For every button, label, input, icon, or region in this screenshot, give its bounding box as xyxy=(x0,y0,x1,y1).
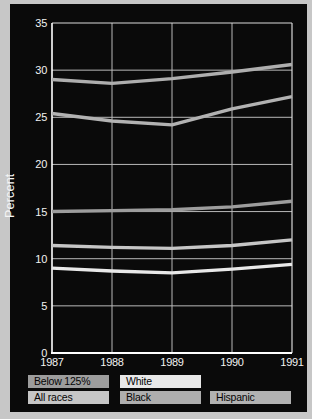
x-tick-label: 1991 xyxy=(275,357,309,368)
y-tick-label: 15 xyxy=(25,207,47,218)
legend-item-white: White xyxy=(120,375,201,388)
x-tick-label: 1989 xyxy=(155,357,189,368)
y-tick-label: 35 xyxy=(25,18,47,29)
x-tick-label: 1987 xyxy=(35,357,69,368)
x-tick-label: 1990 xyxy=(215,357,249,368)
y-tick-label: 5 xyxy=(25,301,47,312)
y-tick-label: 30 xyxy=(25,65,47,76)
y-tick-label: 20 xyxy=(25,159,47,170)
legend-item-hispanic: Hispanic xyxy=(210,391,291,404)
x-tick-label: 1988 xyxy=(95,357,129,368)
y-tick-label: 10 xyxy=(25,254,47,265)
legend-item-all-races: All races xyxy=(28,391,109,404)
legend-item-below-125-: Below 125% xyxy=(28,375,109,388)
y-tick-label: 25 xyxy=(25,112,47,123)
legend-item-black: Black xyxy=(120,391,201,404)
